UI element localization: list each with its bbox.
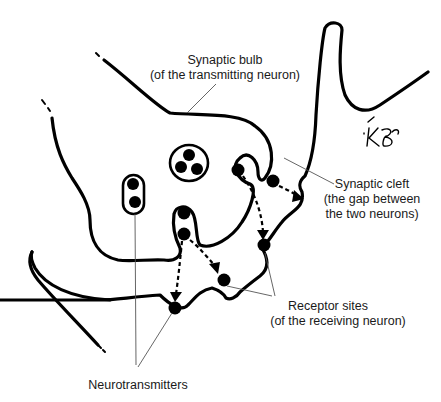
- synaptic-cleft-label: Synaptic cleft: [335, 177, 410, 191]
- neurotransmitter-dot: [232, 164, 245, 177]
- neurotransmitter-dot: [129, 196, 141, 208]
- arrow-head-icon: [170, 292, 182, 302]
- neurotransmitter-dot: [183, 149, 195, 161]
- neurotransmitter-dot: [191, 163, 203, 175]
- synaptic-bulb-label: Synaptic bulb: [187, 53, 262, 67]
- receptor-sites-label: Receptor sites: [288, 299, 368, 313]
- synapse-diagram: Synaptic bulb (of the transmitting neuro…: [0, 0, 441, 402]
- vesicle-three: [170, 145, 208, 181]
- synaptic-bulb-outline: [42, 53, 272, 261]
- synaptic-bulb-sublabel: (of the transmitting neuron): [150, 68, 300, 82]
- vesicle-two: [123, 175, 144, 214]
- neurotransmitter-dot: [267, 175, 280, 188]
- receptor-site: [258, 239, 271, 252]
- neurotransmitter-dot: [127, 178, 139, 190]
- neurotransmitters-label: Neurotransmitters: [88, 378, 187, 392]
- arrow-head-icon: [257, 230, 269, 240]
- synaptic-cleft-sublabel-2: the two neurons): [325, 207, 418, 221]
- neurotransmitter-dot: [178, 207, 191, 220]
- synaptic-cleft-sublabel-1: (the gap between: [324, 192, 421, 206]
- receptor-sites-sublabel: (of the receiving neuron): [270, 314, 406, 328]
- receptor-site: [169, 302, 182, 315]
- arrow-head-icon: [209, 262, 220, 274]
- neurotransmitter-dot: [178, 228, 191, 241]
- receptor-site: [218, 274, 231, 287]
- neurotransmitter-dot: [175, 161, 187, 173]
- artist-signature: [364, 117, 399, 146]
- release-arrows: [170, 176, 304, 302]
